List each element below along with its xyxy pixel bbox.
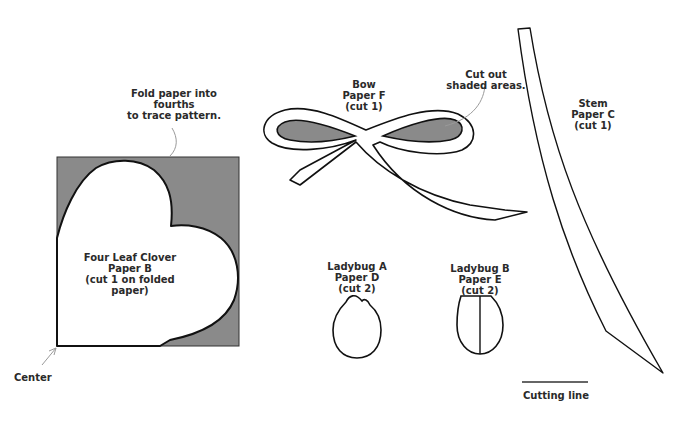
fold-line-2: fourths (118, 99, 230, 110)
bow-pattern (264, 109, 527, 220)
clover-instructions-2: paper) (80, 285, 180, 296)
ladybug-a-label: Ladybug A Paper D (cut 2) (325, 261, 389, 294)
pattern-drawing (0, 0, 687, 431)
fold-leader-line (170, 128, 176, 156)
ladybug-a-name: Ladybug A (325, 261, 389, 272)
fold-line-3: to trace pattern. (118, 110, 230, 121)
ladybug-a-instructions: (cut 2) (325, 283, 389, 294)
cut-shaded-line-1: Cut out (446, 69, 526, 80)
bow-instructions: (cut 1) (336, 101, 392, 112)
clover-label: Four Leaf Clover Paper B (cut 1 on folde… (80, 252, 180, 296)
stem-label: Stem Paper C (cut 1) (565, 98, 621, 131)
ladybug-b-name: Ladybug B (448, 263, 512, 274)
fold-instruction-label: Fold paper into fourths to trace pattern… (118, 88, 230, 121)
cutting-line-text: Cutting line (523, 390, 589, 401)
ladybug-a-paper: Paper D (325, 272, 389, 283)
fold-line-1: Fold paper into (118, 88, 230, 99)
cut-shaded-line-2: shaded areas. (446, 80, 526, 91)
ladybug-b-instructions: (cut 2) (448, 285, 512, 296)
center-label: Center (14, 372, 52, 383)
center-arrow-icon (42, 348, 56, 365)
stem-instructions: (cut 1) (565, 120, 621, 131)
center-text: Center (14, 372, 52, 383)
clover-instructions-1: (cut 1 on folded (80, 274, 180, 285)
cutting-line-legend-label: Cutting line (523, 390, 589, 401)
cut-shaded-label: Cut out shaded areas. (446, 69, 526, 91)
stem-name: Stem (565, 98, 621, 109)
stem-pattern (518, 28, 663, 373)
bow-name: Bow (336, 79, 392, 90)
bow-label: Bow Paper F (cut 1) (336, 79, 392, 112)
stem-paper: Paper C (565, 109, 621, 120)
clover-paper: Paper B (80, 263, 180, 274)
ladybug-b-pattern (457, 296, 503, 354)
ladybug-b-label: Ladybug B Paper E (cut 2) (448, 263, 512, 296)
bow-paper: Paper F (336, 90, 392, 101)
ladybug-b-paper: Paper E (448, 274, 512, 285)
ladybug-a-pattern (333, 296, 381, 358)
clover-name: Four Leaf Clover (80, 252, 180, 263)
